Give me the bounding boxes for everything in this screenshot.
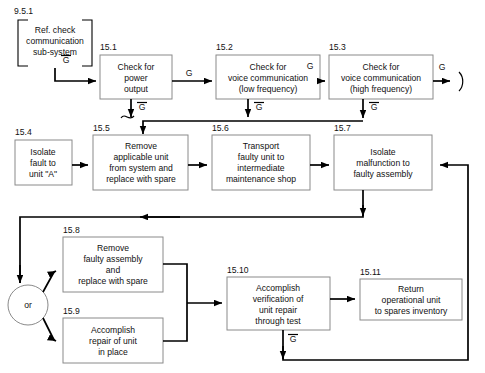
box-line-3: (low frequency) — [239, 84, 298, 94]
squiggle-connector-icon — [121, 116, 134, 118]
reference-block-line-2: communication — [26, 36, 84, 46]
box-line-3: unit repair — [259, 305, 297, 315]
box-line-2: operational unit — [382, 295, 441, 305]
process-box-15-7[interactable]: 15.7 Isolate malfunction to faulty assem… — [334, 123, 432, 190]
box-line-1: Isolate — [370, 147, 396, 157]
process-box-15-8[interactable]: 15.8 Remove faulty assembly and replace … — [63, 225, 163, 292]
box-line-1: Isolate — [30, 147, 56, 157]
edge-label-g-not: G — [256, 102, 263, 112]
process-box-15-3[interactable]: 15.3 Check for voice communication (high… — [329, 42, 433, 99]
box-number: 15.4 — [15, 127, 32, 137]
box-number: 15.9 — [63, 306, 80, 316]
edge-label-g: G — [307, 61, 314, 71]
box-line-1: Return — [398, 284, 424, 294]
squiggle-connector-icon — [459, 72, 463, 91]
edge-or-to-15-8 — [43, 271, 56, 292]
process-box-15-9[interactable]: 15.9 Accomplish repair of unit in place — [63, 306, 163, 363]
box-line-3: faulty assembly — [353, 169, 413, 179]
box-number: 15.6 — [212, 123, 229, 133]
edge-label-g-not: G — [139, 102, 146, 112]
reference-block-number: 9.5.1 — [14, 6, 33, 16]
entry-g-label: G — [63, 55, 70, 65]
edge-or-to-15-9 — [43, 318, 56, 341]
box-line-1: Accomplish — [256, 283, 300, 293]
edge-15-2-down: G — [248, 99, 264, 117]
box-number: 15.11 — [360, 267, 381, 277]
box-line-3: and — [106, 265, 121, 275]
box-line-1: Accomplish — [91, 325, 135, 335]
box-line-1: Remove — [125, 141, 157, 151]
box-number: 15.3 — [329, 42, 346, 52]
box-line-2: faulty assembly — [83, 254, 143, 264]
edge-label-g-not: G — [290, 334, 297, 344]
box-line-2: voice communication — [228, 73, 308, 83]
reference-block-line-1: Ref. check — [35, 25, 76, 35]
process-box-15-5[interactable]: 15.5 Remove applicable unit from system … — [93, 123, 188, 190]
process-box-15-10[interactable]: 15.10 Accomplish verification of unit re… — [227, 265, 330, 330]
box-line-3: output — [124, 84, 149, 94]
box-line-2: voice communication — [341, 73, 421, 83]
box-line-3: from system and — [109, 163, 173, 173]
box-number: 15.5 — [93, 123, 110, 133]
edge-merge-to-15-10 — [163, 264, 222, 341]
box-line-3: to spares inventory — [375, 306, 448, 316]
box-number: 15.10 — [227, 265, 249, 275]
or-decision-node[interactable]: or — [8, 285, 48, 325]
reference-block: 9.5.1 Ref. check communication sub-syste… — [14, 6, 92, 66]
box-line-1: Remove — [97, 243, 129, 253]
box-line-4: through test — [255, 316, 301, 326]
process-box-15-6[interactable]: 15.6 Transport faulty unit to intermedia… — [212, 123, 310, 190]
feedback-bus-to-15-4 — [143, 121, 363, 134]
edge-label-g-not: G — [371, 102, 378, 112]
box-line-1: Check for — [118, 62, 155, 72]
box-line-1: Check for — [250, 62, 287, 72]
edge-15-1-to-15-2: G — [172, 68, 212, 81]
entry-arrow: G — [55, 55, 96, 81]
box-line-2: faulty unit to — [238, 152, 285, 162]
box-line-4: replace with spare — [106, 174, 176, 184]
box-line-3: in place — [98, 347, 128, 357]
box-line-3: unit "A" — [29, 169, 57, 179]
box-line-3: (high frequency) — [350, 84, 412, 94]
box-line-1: Check for — [363, 62, 400, 72]
process-flow-diagram: 9.5.1 Ref. check communication sub-syste… — [0, 0, 485, 373]
edge-label-g: G — [186, 68, 193, 78]
process-box-15-4[interactable]: 15.4 Isolate fault to unit "A" — [15, 127, 72, 185]
box-line-4: replace with spare — [78, 276, 148, 286]
box-number: 15.7 — [334, 123, 351, 133]
process-box-15-2[interactable]: 15.2 Check for voice communication (low … — [216, 42, 320, 99]
edge-15-10-feedback-to-15-7: G — [283, 165, 468, 360]
box-line-2: repair of unit — [89, 336, 137, 346]
process-box-15-11[interactable]: 15.11 Return operational unit to spares … — [360, 267, 462, 320]
box-line-2: fault to — [30, 158, 56, 168]
process-box-15-1[interactable]: 15.1 Check for power output — [100, 42, 172, 99]
box-line-1: Transport — [243, 141, 280, 151]
box-line-3: intermediate — [237, 163, 285, 173]
box-line-2: applicable unit — [114, 152, 170, 162]
box-line-2: malfunction to — [356, 158, 410, 168]
box-number: 15.2 — [216, 42, 233, 52]
box-line-2: power — [124, 73, 148, 83]
box-number: 15.8 — [63, 225, 80, 235]
box-line-4: maintenance shop — [226, 174, 296, 184]
edge-15-3-right: G — [433, 62, 463, 91]
edge-label-g: G — [439, 62, 446, 72]
box-line-2: verification of — [253, 294, 304, 304]
edge-15-1-down: G — [121, 99, 147, 118]
edge-15-3-down: G — [363, 99, 379, 118]
or-node-label: or — [24, 300, 32, 310]
box-number: 15.1 — [100, 42, 117, 52]
